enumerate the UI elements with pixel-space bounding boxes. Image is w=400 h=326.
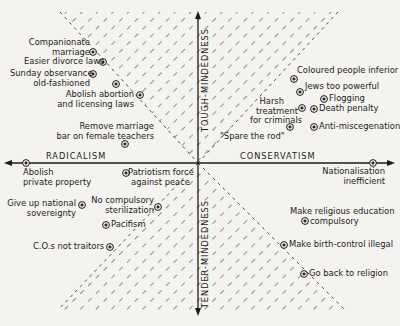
- arrow-left-icon: [4, 160, 12, 166]
- label-give-up-sovereignty: Give up national sovereignty: [2, 199, 76, 218]
- arrow-down-icon: [195, 308, 201, 316]
- label-easier-divorce: Easier divorce laws: [24, 57, 104, 67]
- label-patriotism: Patriotism force against peace: [128, 168, 190, 187]
- label-coloured-people: Coloured people inferior: [297, 66, 398, 76]
- conservatism-axis-label: CONSERVATISM: [240, 151, 316, 161]
- tough-mindedness-axis-label: TOUGH-MINDEDNESS: [200, 28, 210, 132]
- label-cos-not-traitors: C.O.s not traitors: [33, 242, 104, 252]
- label-spare-the-rod: "Spare the rod": [220, 132, 285, 142]
- label-anti-miscegenation: Anti-miscegenation: [319, 122, 400, 132]
- label-harsh-treatment: Harsh treatment for criminals: [250, 97, 298, 126]
- label-abolish-abortion: Abolish abortion and licensing laws: [50, 90, 134, 109]
- label-abolish-private-property: Abolish private property: [23, 168, 91, 187]
- label-sunday-observance: Sunday observance old-fashioned: [10, 69, 90, 88]
- label-nationalisation-inefficient: Nationalisation inefficient: [300, 167, 385, 186]
- tender-mindedness-axis-label: TENDER-MINDEDNESS: [200, 200, 210, 308]
- label-no-compulsory-sterilization: No compulsory sterilization: [90, 196, 154, 215]
- radicalism-axis-label: RADICALISM: [46, 151, 106, 161]
- label-companionate-marriage: Companionate marriage: [20, 38, 90, 57]
- label-religious-education: Make religious education compulsory: [290, 207, 394, 226]
- label-remove-marriage-bar: Remove marriage bar on female teachers: [50, 122, 154, 141]
- label-death-penalty: Death penalty: [319, 104, 378, 114]
- label-birth-control: Make birth-control illegal: [289, 240, 393, 250]
- arrow-right-icon: [387, 160, 395, 166]
- label-pacifism: Pacifism: [111, 220, 146, 230]
- label-jews-too-powerful: Jews too powerful: [305, 82, 379, 92]
- label-go-back-to-religion: Go back to religion: [309, 269, 388, 279]
